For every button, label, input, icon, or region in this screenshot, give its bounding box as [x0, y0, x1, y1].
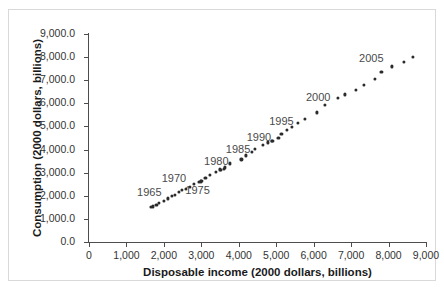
y-tick: 3,000.0 — [84, 173, 89, 174]
x-tick — [164, 242, 165, 247]
data-point — [174, 193, 177, 196]
data-point — [354, 88, 357, 91]
data-point — [250, 150, 253, 153]
data-point — [214, 170, 217, 173]
data-point — [411, 56, 414, 59]
x-tick — [351, 242, 352, 247]
year-annotation: 1980 — [204, 155, 228, 167]
data-point — [271, 139, 274, 142]
year-annotation: 1970 — [162, 172, 186, 184]
y-tick-label: 0.0 — [60, 235, 75, 247]
y-tick-label: 1,000.0 — [40, 212, 75, 224]
data-point — [200, 179, 203, 182]
x-tick-label: 4,000 — [226, 249, 252, 261]
x-axis-line — [88, 242, 427, 243]
x-tick-label: 8,000 — [375, 249, 401, 261]
data-point — [390, 65, 393, 68]
data-point — [315, 111, 318, 114]
x-tick — [201, 242, 202, 247]
y-tick: 8,000.0 — [84, 57, 89, 58]
data-point — [280, 133, 283, 136]
data-point — [323, 103, 326, 106]
data-point — [343, 93, 346, 96]
x-tick — [239, 242, 240, 247]
data-point — [373, 77, 376, 80]
y-tick: 4,000.0 — [84, 150, 89, 151]
y-tick-label: 9,000.0 — [40, 27, 75, 39]
x-tick — [276, 242, 277, 247]
y-tick-label: 3,000.0 — [40, 166, 75, 178]
year-annotation: 1965 — [137, 186, 161, 198]
year-annotation: 1990 — [247, 131, 271, 143]
year-annotation: 1995 — [269, 115, 293, 127]
y-tick-label: 8,000.0 — [40, 50, 75, 62]
x-tick-label: 5,000 — [263, 249, 289, 261]
data-point — [229, 162, 232, 165]
x-tick — [126, 242, 127, 247]
data-point — [363, 83, 366, 86]
x-tick-label: 3,000 — [188, 249, 214, 261]
data-point — [240, 158, 243, 161]
year-annotation: 2005 — [359, 52, 383, 64]
y-tick-label: 2,000.0 — [40, 189, 75, 201]
chart-figure: Consumption (2000 dollars, billions) Dis… — [0, 0, 444, 289]
y-tick-label: 4,000.0 — [40, 143, 75, 155]
y-tick-label: 6,000.0 — [40, 96, 75, 108]
x-tick-label: 2,000 — [151, 249, 177, 261]
x-tick-label: 9,000 — [413, 249, 439, 261]
data-point — [253, 147, 256, 150]
figure-frame: Consumption (2000 dollars, billions) Dis… — [8, 9, 436, 281]
data-point — [277, 136, 280, 139]
x-tick — [389, 242, 390, 247]
data-point — [166, 197, 169, 200]
data-point — [336, 96, 339, 99]
y-tick: 9,000.0 — [84, 34, 89, 35]
plot-area: 0.01,000.02,000.03,000.04,000.05,000.06,… — [89, 34, 426, 242]
data-point — [380, 71, 383, 74]
data-point — [180, 189, 183, 192]
y-tick-label: 7,000.0 — [40, 73, 75, 85]
data-point — [303, 117, 306, 120]
year-annotation: 2000 — [306, 91, 330, 103]
y-tick-label: 5,000.0 — [40, 119, 75, 131]
y-axis-title: Consumption (2000 dollars, billions) — [29, 34, 45, 242]
y-tick: 6,000.0 — [84, 103, 89, 104]
y-tick: 2,000.0 — [84, 196, 89, 197]
data-point — [208, 173, 211, 176]
data-point — [204, 176, 207, 179]
data-point — [402, 60, 405, 63]
y-tick: 5,000.0 — [84, 126, 89, 127]
data-point — [261, 143, 264, 146]
x-tick — [426, 242, 427, 247]
x-axis-title: Disposable income (2000 dollars, billion… — [88, 266, 427, 278]
data-point — [285, 129, 288, 132]
x-tick-label: 6,000 — [301, 249, 327, 261]
year-annotation: 1985 — [226, 143, 250, 155]
data-point — [296, 121, 299, 124]
y-tick: 7,000.0 — [84, 80, 89, 81]
data-point — [157, 202, 160, 205]
x-tick — [89, 242, 90, 247]
year-annotation: 1975 — [185, 184, 209, 196]
x-tick-label: 7,000 — [338, 249, 364, 261]
x-tick — [314, 242, 315, 247]
y-tick: 1,000.0 — [84, 219, 89, 220]
data-point — [162, 199, 165, 202]
x-tick-label: 0 — [86, 249, 92, 261]
x-tick-label: 1,000 — [113, 249, 139, 261]
